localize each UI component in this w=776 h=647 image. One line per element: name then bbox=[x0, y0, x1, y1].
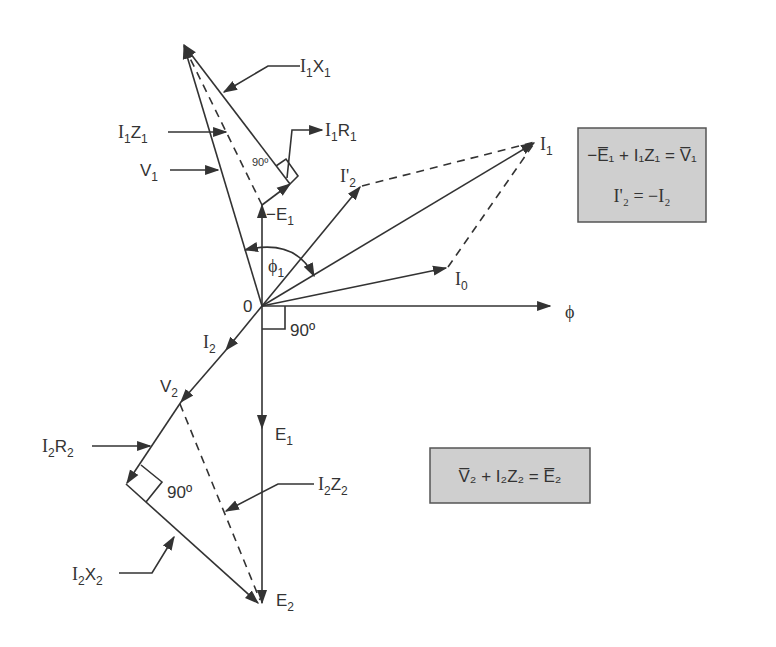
v2-label: V2 bbox=[160, 377, 178, 400]
e1-label: E1 bbox=[275, 425, 293, 448]
phasor-diagram: I1X1 I1Z1 I1R1 V1 90º −E1 I'2 I1 I0 ϕ ϕ1… bbox=[0, 0, 776, 647]
i1r1-phasor bbox=[262, 184, 290, 205]
i1z1-label: I1Z1 bbox=[118, 122, 148, 146]
labels: I1X1 I1Z1 I1R1 V1 90º −E1 I'2 I1 I0 ϕ ϕ1… bbox=[42, 56, 574, 614]
right-angle-label-origin: 90º bbox=[290, 321, 315, 340]
right-angle-label-primary: 90º bbox=[252, 156, 268, 168]
i1r1-leader bbox=[287, 130, 322, 178]
v2-phasor bbox=[181, 350, 226, 402]
i2x2-label: I2X2 bbox=[72, 564, 103, 588]
right-angle-marker-origin bbox=[262, 306, 285, 329]
i2r2-phasor bbox=[127, 402, 181, 483]
i2x2-leader bbox=[119, 537, 174, 573]
i1r1-label: I1R1 bbox=[325, 120, 357, 144]
i2z2-phasor bbox=[180, 404, 260, 600]
right-angle-marker-secondary bbox=[141, 465, 162, 502]
i1-label: I1 bbox=[540, 134, 553, 158]
i2r2-label: I2R2 bbox=[42, 436, 74, 460]
primary-equation-line1: −E̅₁ + I₁Z₁ = V̅₁ bbox=[587, 146, 697, 165]
e2-label: E2 bbox=[276, 591, 294, 614]
origin-label: 0 bbox=[243, 297, 252, 316]
secondary-equation-line1: V̅₂ + I₂Z₂ = E̅₂ bbox=[459, 467, 562, 486]
i0-label: I0 bbox=[455, 269, 468, 293]
flux-label: ϕ bbox=[565, 302, 574, 322]
i2prime-label: I'2 bbox=[340, 166, 356, 190]
phi1-label: ϕ1 bbox=[268, 256, 284, 280]
v1-phasor bbox=[184, 46, 262, 306]
parallelogram-top bbox=[362, 142, 535, 186]
i1x1-leader bbox=[224, 66, 300, 92]
primary-equation-box: −E̅₁ + I₁Z₁ = V̅₁ I'₂ = −I₂ bbox=[578, 128, 706, 222]
primary-equation-line2: I'₂ = −I₂ bbox=[613, 186, 670, 206]
secondary-equation-box: V̅₂ + I₂Z₂ = E̅₂ bbox=[430, 448, 590, 503]
i1x1-label: I1X1 bbox=[300, 56, 331, 80]
v1-label: V1 bbox=[140, 161, 158, 184]
minus-e1-label: −E1 bbox=[266, 205, 294, 228]
right-angle-label-secondary: 90º bbox=[167, 483, 192, 502]
i2-label: I2 bbox=[203, 332, 216, 356]
i2z2-leader bbox=[226, 484, 314, 511]
i1-phasor bbox=[262, 143, 534, 306]
i2z2-label: I2Z2 bbox=[318, 474, 348, 498]
